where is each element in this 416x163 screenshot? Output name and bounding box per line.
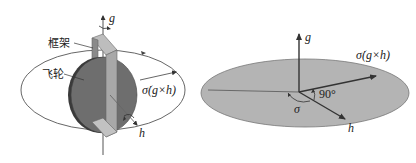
- h-label-left: h: [139, 126, 145, 140]
- gimbal-plane-disk: [201, 59, 409, 127]
- left-figure-cmg: 框架 飞轮 g h σ̇(g×h): [21, 11, 185, 155]
- right-figure-plane: g σ̇(g×h) 90° σ h: [201, 30, 409, 135]
- sigma-dot-label-right: σ̇(g×h): [356, 48, 390, 62]
- sigma-dot-arrow-left: [140, 72, 176, 80]
- frame-leader: [74, 43, 93, 48]
- frame-label: 框架: [48, 37, 70, 50]
- g-label-right: g: [305, 30, 311, 44]
- right-angle-label: 90°: [319, 87, 336, 101]
- h-label-right: h: [348, 121, 354, 135]
- g-label-left: g: [109, 11, 115, 25]
- sigma-dot-label-left: σ̇(g×h): [142, 83, 176, 97]
- flywheel-label: 飞轮: [42, 67, 64, 81]
